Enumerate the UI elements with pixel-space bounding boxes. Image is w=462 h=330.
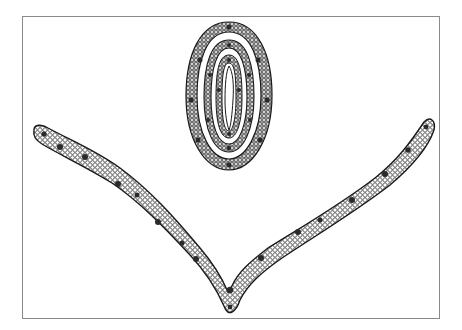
leaf-cross-section-illustration	[0, 0, 462, 330]
rolled-leaf-inner-fold	[225, 66, 233, 130]
rolled-leaf-section	[186, 22, 272, 170]
